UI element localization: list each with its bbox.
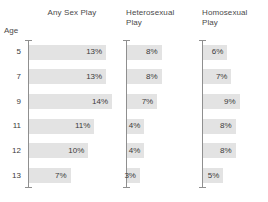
bar[interactable]: 13% xyxy=(29,69,106,84)
bar-row: 8% xyxy=(127,40,196,65)
bar-row: 13% xyxy=(29,65,124,90)
bar-value-label: 3% xyxy=(124,172,136,180)
bar-value-label: 7% xyxy=(142,98,154,106)
bar-row: 8% xyxy=(203,114,268,139)
bar-value-label: 7% xyxy=(55,172,67,180)
bar-row: 4% xyxy=(127,114,196,139)
bar[interactable]: 8% xyxy=(127,45,162,60)
bar[interactable]: 10% xyxy=(29,143,88,158)
bar-row: 10% xyxy=(29,139,124,164)
bar[interactable]: 13% xyxy=(29,45,106,60)
bar[interactable]: 3% xyxy=(127,168,140,183)
bar[interactable]: 8% xyxy=(203,119,236,134)
bar-row: 6% xyxy=(203,40,268,65)
y-axis-title: Age xyxy=(4,26,18,35)
bar-value-label: 13% xyxy=(86,73,102,81)
bar-row: 5% xyxy=(203,163,268,188)
bar[interactable]: 14% xyxy=(29,94,112,109)
bar[interactable]: 5% xyxy=(203,168,223,183)
bar-group-any-sex-play: 13% 13% 14% 11% 10% xyxy=(29,40,124,188)
bar-row: 7% xyxy=(29,163,124,188)
bar-value-label: 11% xyxy=(75,122,90,130)
y-axis-tick-label: 9 xyxy=(0,89,25,114)
bar-row: 14% xyxy=(29,89,124,114)
y-axis-tick-label: 12 xyxy=(0,139,25,164)
y-axis-tick-label: 7 xyxy=(0,65,25,90)
bar[interactable]: 9% xyxy=(203,94,240,109)
bar-value-label: 10% xyxy=(68,147,84,155)
bar-group-heterosexual-play: 8% 8% 7% 4% 4% xyxy=(127,40,196,188)
bar[interactable]: 8% xyxy=(203,143,236,158)
bar-value-label: 4% xyxy=(129,122,141,130)
bar-row: 11% xyxy=(29,114,124,139)
bar-value-label: 8% xyxy=(220,147,232,155)
bar-value-label: 8% xyxy=(220,122,232,130)
panel-title-any-sex-play: Any Sex Play xyxy=(24,8,120,18)
bar-row: 4% xyxy=(127,139,196,164)
bar-row: 7% xyxy=(127,89,196,114)
grouped-bar-chart: Age 5 7 9 11 12 13 Any Sex Play 13% 13% xyxy=(0,0,268,202)
panel-homosexual-play: Homosexual Play 6% 7% 9% 8% xyxy=(202,0,268,202)
bar[interactable]: 4% xyxy=(127,143,144,158)
bar[interactable]: 4% xyxy=(127,119,144,134)
bar-row: 8% xyxy=(203,139,268,164)
panel-title-homosexual-play: Homosexual Play xyxy=(202,8,268,28)
panel-heterosexual-play: Heterosexual Play 8% 8% 7% 4% xyxy=(126,0,196,202)
bar-row: 8% xyxy=(127,65,196,90)
y-axis-tick-label: 5 xyxy=(0,40,25,65)
bar[interactable]: 7% xyxy=(127,94,157,109)
bar-row: 3% xyxy=(127,163,196,188)
y-axis-tick-label: 11 xyxy=(0,114,25,139)
panel-title-heterosexual-play: Heterosexual Play xyxy=(126,8,196,28)
bar[interactable]: 6% xyxy=(203,45,227,60)
bar[interactable]: 7% xyxy=(203,69,231,84)
bar-value-label: 14% xyxy=(92,98,108,106)
y-axis-tick-label: 13 xyxy=(0,163,25,188)
bar[interactable]: 11% xyxy=(29,119,94,134)
bar-row: 7% xyxy=(203,65,268,90)
bar-value-label: 7% xyxy=(216,73,228,81)
bar[interactable]: 7% xyxy=(29,168,71,183)
bar-value-label: 13% xyxy=(86,48,102,56)
bar-value-label: 9% xyxy=(224,98,236,106)
bar-value-label: 6% xyxy=(212,48,224,56)
bar-value-label: 8% xyxy=(146,48,158,56)
bar-value-label: 4% xyxy=(129,147,141,155)
y-axis-tick-labels: 5 7 9 11 12 13 xyxy=(0,40,25,188)
bar-value-label: 8% xyxy=(146,73,158,81)
bar-group-homosexual-play: 6% 7% 9% 8% 8% xyxy=(203,40,268,188)
bar-row: 13% xyxy=(29,40,124,65)
bar[interactable]: 8% xyxy=(127,69,162,84)
bar-row: 9% xyxy=(203,89,268,114)
bar-value-label: 5% xyxy=(208,172,220,180)
panel-any-sex-play: Any Sex Play 13% 13% 14% 11% xyxy=(28,0,124,202)
